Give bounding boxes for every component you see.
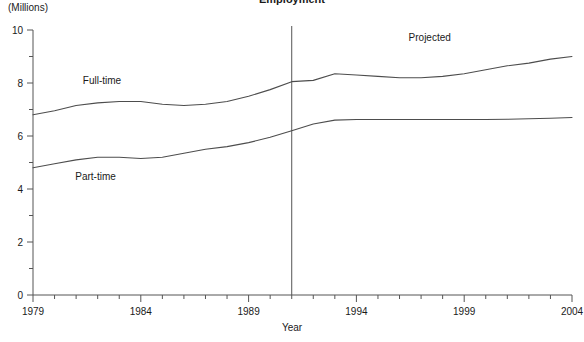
x-tick-label: 1979 [22, 306, 45, 317]
x-tick-label: 1989 [237, 306, 260, 317]
y-tick-label: 10 [12, 25, 24, 36]
x-axis-title: Year [0, 322, 584, 333]
annotation-projected: Projected [409, 32, 451, 43]
y-tick-label: 6 [17, 131, 23, 142]
x-tick-label: 1984 [130, 306, 153, 317]
plot-area: 0246810197919841989199419992004Full-time… [0, 0, 584, 342]
series-label-part-time: Part-time [75, 171, 116, 182]
y-tick-label: 0 [17, 290, 23, 301]
x-tick-label: 1994 [345, 306, 368, 317]
x-tick-label: 1999 [453, 306, 476, 317]
y-tick-label: 8 [17, 78, 23, 89]
chart-title: Employment [0, 0, 584, 5]
series-line-part-time [33, 117, 572, 167]
employment-line-chart: Employment (Millions) 024681019791984198… [0, 0, 584, 342]
y-tick-label: 2 [17, 237, 23, 248]
x-tick-label: 2004 [561, 306, 584, 317]
y-axis-unit-label: (Millions) [8, 2, 48, 13]
series-label-full-time: Full-time [83, 75, 122, 86]
y-tick-label: 4 [17, 184, 23, 195]
